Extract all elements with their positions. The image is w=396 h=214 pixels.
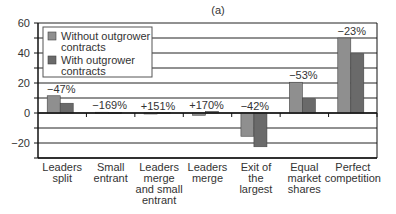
legend-label: contracts: [61, 65, 106, 77]
y-tick-label: 20: [18, 77, 30, 89]
legend-swatch: [48, 56, 56, 64]
y-tick-label: 40: [18, 47, 30, 59]
bar: [338, 38, 351, 113]
category-label: Perfectcompetition: [325, 161, 381, 184]
category-label: Exit ofthelargest: [239, 161, 272, 195]
category-label: Equalmarketshares: [288, 161, 322, 195]
bar-annotation: −42%: [241, 100, 270, 112]
legend-swatch: [48, 32, 56, 40]
category-label: Leadersmergeand smallentrant: [136, 161, 183, 206]
bar: [60, 103, 73, 113]
chart-title: (a): [211, 4, 224, 16]
y-tick-label: 60: [18, 17, 30, 29]
bar: [241, 113, 254, 136]
bar-annotation: +170%: [189, 99, 224, 111]
y-tick-label: 0: [24, 107, 30, 119]
bar-annotation: −47%: [47, 83, 76, 95]
category-label: Leadersmerge: [188, 161, 228, 184]
category-label: Smallentrant: [94, 161, 128, 184]
bar: [47, 96, 60, 113]
legend: Without outgrowercontractsWith outgrower…: [43, 27, 152, 77]
bar: [302, 99, 315, 113]
bar-annotation: −23%: [338, 25, 367, 37]
bar-chart: (a) −200204060 −47%−169%+151%+170%−42%−5…: [0, 0, 396, 214]
y-tick-label: −20: [11, 137, 30, 149]
bar: [351, 54, 364, 113]
bar-annotation: −53%: [289, 69, 318, 81]
bar-annotation: −169%: [92, 99, 127, 111]
y-axis-ticks: −200204060: [11, 17, 38, 158]
bar: [289, 82, 302, 113]
category-label: Leaderssplit: [42, 161, 82, 184]
legend-label: contracts: [61, 41, 106, 53]
x-axis-category-labels: LeaderssplitSmallentrantLeadersmergeand …: [42, 161, 381, 206]
bar-annotation: +151%: [141, 100, 176, 112]
bar: [254, 113, 267, 147]
